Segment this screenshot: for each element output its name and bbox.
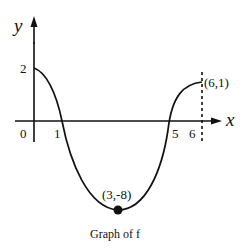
- x-tick-1: 1: [54, 127, 61, 140]
- x-axis-label: x: [226, 110, 234, 129]
- y-axis-arrow-icon: [31, 16, 38, 27]
- graph-canvas: [0, 0, 248, 250]
- end-point-label: (6,1): [204, 76, 229, 89]
- x-axis-arrow-icon: [211, 118, 222, 125]
- x-tick-0: 0: [20, 127, 27, 140]
- x-tick-5: 5: [172, 127, 179, 140]
- min-point-label: (3,-8): [102, 188, 131, 201]
- x-tick-6: 6: [189, 127, 196, 140]
- y-axis-label: y: [14, 16, 22, 35]
- chart-caption: Graph of f: [90, 228, 140, 240]
- y-tick-2: 2: [20, 62, 27, 75]
- min-point-marker: [114, 206, 123, 215]
